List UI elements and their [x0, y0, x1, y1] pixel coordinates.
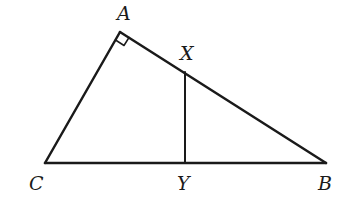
segment-ab [120, 32, 326, 163]
label-x: X [178, 42, 195, 64]
label-c: C [29, 172, 44, 194]
segment-ac [45, 32, 120, 163]
label-a: A [115, 2, 131, 24]
label-y: Y [177, 172, 192, 194]
label-b: B [317, 172, 332, 194]
triangle-diagram: A X C Y B [0, 0, 353, 205]
